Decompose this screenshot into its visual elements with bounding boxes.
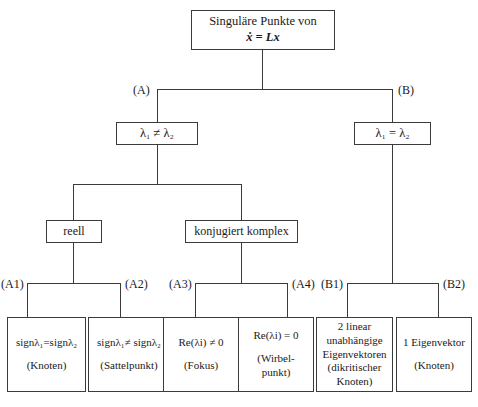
connector-a-drop	[157, 89, 158, 122]
box-konjugiert-komplex-label: konjugiert komplex	[194, 224, 288, 239]
leaf-box-a3-line2: (Fokus)	[184, 359, 218, 373]
connector-a1-drop	[27, 283, 28, 317]
leaf-box-a3-line1: Re(λi) ≠ 0	[179, 336, 224, 350]
branch-label-a3: (A3)	[169, 278, 192, 290]
connector-b2-drop	[438, 283, 439, 317]
leaf-box-b2-line1: 1 Eigenvektor	[403, 336, 465, 350]
leaf-box-a4: Re(λi) = 0 (Wirbel- punkt)	[238, 317, 314, 392]
branch-label-a2: (A2)	[125, 278, 148, 290]
connector-ab-bar	[157, 89, 393, 90]
connector-a-sub-bar	[73, 184, 242, 185]
leaf-box-a1-line2: (Knoten)	[27, 359, 67, 373]
leaf-box-b1-line4: (dikritischer	[328, 361, 382, 375]
leaf-box-a2-line1: signλ₁≠ signλ₂	[97, 336, 161, 350]
leaf-box-a2-line2: (Sattelpunkt)	[100, 359, 157, 373]
box-reell: reell	[46, 220, 102, 243]
connector-a3a4-bar	[195, 283, 288, 284]
branch-label-a4: (A4)	[292, 278, 315, 290]
connector-reell-stem	[73, 243, 74, 283]
box-lambda-unequal-label: λ₁ ≠ λ₂	[140, 126, 174, 142]
leaf-box-b1-line5: Knoten)	[336, 375, 372, 389]
connector-komplex-drop	[241, 184, 242, 220]
leaf-box-a2: signλ₁≠ signλ₂ (Sattelpunkt)	[88, 317, 170, 392]
branch-label-a1: (A1)	[1, 278, 24, 290]
box-konjugiert-komplex: konjugiert komplex	[185, 220, 298, 243]
connector-b1b2-bar	[347, 283, 439, 284]
root-box-singular-points: Singuläre Punkte von ẋ = Lx	[191, 10, 335, 50]
leaf-box-a3: Re(λi) ≠ 0 (Fokus)	[163, 317, 239, 392]
connector-b-stem	[392, 145, 393, 283]
leaf-box-b2: 1 Eigenvektor (Knoten)	[396, 317, 472, 392]
connector-a1a2-bar	[27, 283, 121, 284]
leaf-box-a4-line2: (Wirbel-	[257, 352, 294, 366]
leaf-box-a4-line3: punkt)	[262, 366, 291, 380]
leaf-box-b1-line2: unabhängige	[326, 334, 382, 348]
connector-a2-drop	[120, 283, 121, 317]
leaf-box-a1: signλ₁=signλ₂ (Knoten)	[7, 317, 86, 392]
leaf-box-b2-line2: (Knoten)	[414, 359, 454, 373]
leaf-box-b1-line1: 2 linear	[338, 320, 371, 334]
box-reell-label: reell	[63, 224, 84, 239]
box-lambda-equal: λ₁ = λ₂	[354, 122, 431, 145]
leaf-box-a1-line1: signλ₁=signλ₂	[16, 336, 77, 350]
connector-a3-drop	[195, 283, 196, 317]
branch-label-b: (B)	[398, 84, 414, 96]
connector-a-stem	[157, 145, 158, 184]
connector-root-stem	[262, 50, 263, 89]
connector-b-drop	[392, 89, 393, 122]
box-lambda-unequal: λ₁ ≠ λ₂	[116, 122, 198, 145]
flowchart-diagram: Singuläre Punkte von ẋ = Lx (A) (B) λ₁ ≠…	[0, 0, 478, 407]
connector-reell-drop	[73, 184, 74, 220]
leaf-box-a4-line1: Re(λi) = 0	[253, 329, 298, 343]
box-lambda-equal-label: λ₁ = λ₂	[375, 126, 409, 142]
connector-b1-drop	[347, 283, 348, 317]
root-box-line2: ẋ = Lx	[246, 30, 280, 46]
root-box-line1: Singuläre Punkte von	[209, 14, 317, 30]
branch-label-b2: (B2)	[443, 278, 465, 290]
connector-a4-drop	[287, 283, 288, 317]
leaf-box-b1-line3: Eigenvektoren	[322, 348, 386, 362]
connector-komplex-stem	[241, 243, 242, 283]
branch-label-a: (A)	[133, 84, 150, 96]
leaf-box-b1: 2 linear unabhängige Eigenvektoren (dikr…	[316, 317, 393, 392]
branch-label-b1: (B1)	[321, 278, 343, 290]
